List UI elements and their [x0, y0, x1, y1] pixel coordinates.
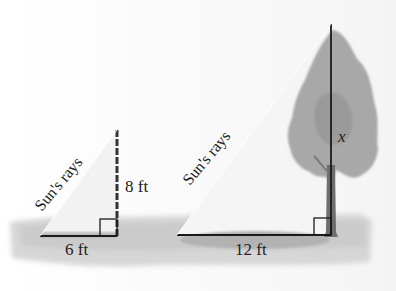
similar-triangles-diagram: Sun's rays 8 ft 6 ft Sun's rays x 12 ft: [0, 0, 396, 291]
right-height-label: x: [338, 128, 346, 145]
diagram-canvas: [0, 0, 396, 291]
left-base-label: 6 ft: [65, 241, 88, 258]
right-base-label: 12 ft: [235, 241, 267, 258]
left-height-label: 8 ft: [125, 178, 148, 195]
